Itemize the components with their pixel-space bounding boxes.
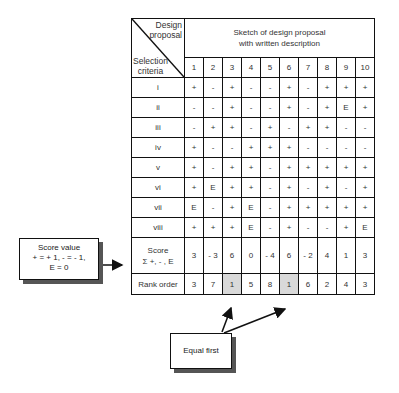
- equal-first-arrow-2: [224, 309, 285, 333]
- score-value-callout: Score value + = + 1, - = - 1, E = 0: [19, 238, 99, 280]
- equal-first-arrow-1: [222, 308, 231, 332]
- equal-first-callout: Equal first: [170, 333, 232, 369]
